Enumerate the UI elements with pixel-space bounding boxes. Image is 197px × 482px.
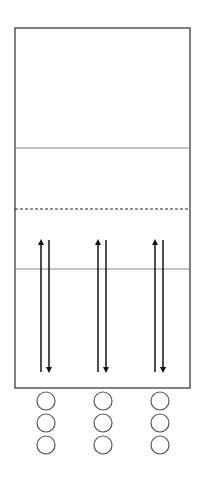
player-circle-icon (151, 436, 169, 454)
player-circle-icon (37, 392, 55, 410)
player-circle-icon (94, 436, 112, 454)
player-circle-icon (94, 392, 112, 410)
player-circle-icon (94, 414, 112, 432)
player-circle-icon (151, 392, 169, 410)
column-1-arrows (41, 240, 49, 372)
player-markers (37, 392, 169, 454)
column-2-arrows (98, 240, 106, 372)
movement-arrows (41, 240, 163, 372)
court-diagram (0, 0, 197, 482)
player-circle-icon (37, 436, 55, 454)
player-circle-icon (37, 414, 55, 432)
player-circle-icon (151, 414, 169, 432)
column-3-arrows (155, 240, 163, 372)
